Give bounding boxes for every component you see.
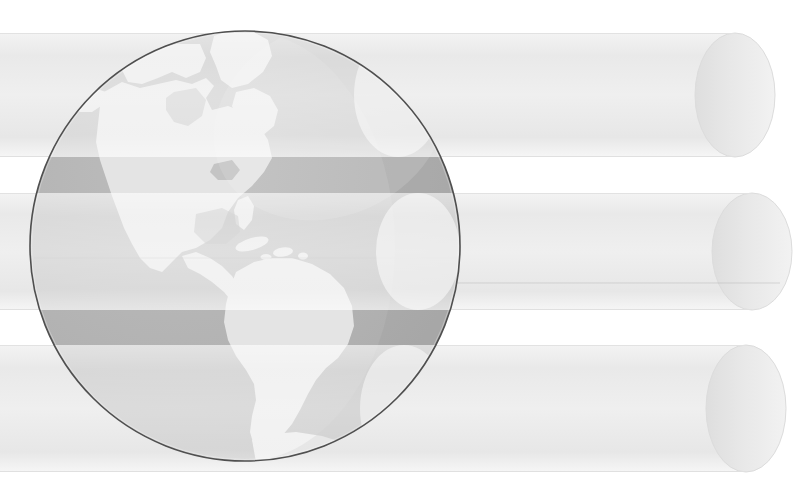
globe-and-bars-illustration [0, 0, 805, 498]
graphic-canvas: Globe with three horizontal cylindrical … [0, 0, 805, 498]
